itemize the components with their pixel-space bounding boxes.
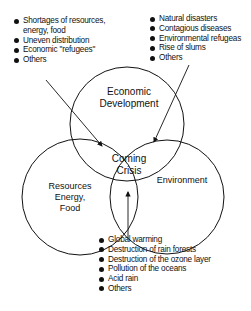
list-item: Economic "refugees" (13, 45, 105, 55)
list-item: Others (13, 55, 105, 65)
list-item: Contagious diseases (149, 24, 241, 34)
list-item: Acid rain (98, 274, 211, 284)
list-item: Pollution of the oceans (98, 264, 211, 274)
list-item: energy, food (13, 26, 105, 36)
list-item: Others (98, 284, 211, 294)
list-item: Others (149, 53, 241, 63)
social-issues-list: Natural disasters Contagious diseases En… (149, 14, 241, 63)
list-item: Destruction of the ozone layer (98, 255, 211, 265)
list-item: Destruction of rain forests (98, 245, 211, 255)
list-item: Uneven distribution (13, 36, 105, 46)
bullet-icon (14, 38, 19, 43)
bullet-icon (99, 277, 104, 282)
list-item: Environmental refugeas (149, 34, 241, 44)
bullet-icon (14, 48, 19, 53)
resources-issues-list: Shortages of resources, energy, food Une… (13, 16, 105, 65)
bullet-icon (99, 247, 104, 252)
bullet-icon (14, 19, 19, 24)
list-item: Natural disasters (149, 14, 241, 24)
bullet-icon (150, 56, 155, 61)
environment-issues-list: Global warming Destruction of rain fores… (98, 235, 211, 294)
coming-crisis-label: Coming Crisis (107, 153, 151, 177)
bullet-icon (150, 46, 155, 51)
resources-label: Resources Energy, Food (40, 181, 100, 214)
bullet-icon (150, 17, 155, 22)
bullet-icon (150, 36, 155, 41)
bullet-icon (14, 58, 19, 63)
bullet-icon (99, 286, 104, 291)
bullet-icon (99, 238, 104, 243)
bullet-icon (99, 267, 104, 272)
list-item: Global warming (98, 235, 211, 245)
bullet-icon (99, 257, 104, 262)
list-item: Shortages of resources, (13, 16, 105, 26)
economic-development-label: Economic Development (92, 86, 166, 110)
bullet-icon (150, 26, 155, 31)
list-item: Rise of slums (149, 43, 241, 53)
environment-label: Environment (148, 175, 216, 186)
